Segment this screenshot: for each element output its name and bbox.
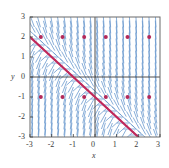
x-tick-label: -1 bbox=[69, 141, 76, 149]
marked-point bbox=[147, 35, 151, 39]
y-tick-label: 3 bbox=[6, 13, 25, 21]
figure-container: -3-2-10123-3-2-10123 x y bbox=[0, 0, 169, 168]
y-tick-label: -2 bbox=[6, 113, 25, 121]
y-tick-label: -1 bbox=[6, 93, 25, 101]
y-tick-label: 2 bbox=[6, 33, 25, 41]
x-tick-label: -2 bbox=[48, 141, 55, 149]
marked-point bbox=[126, 35, 130, 39]
x-tick-label: 1 bbox=[113, 141, 117, 149]
marked-point bbox=[104, 35, 108, 39]
x-tick-label: 2 bbox=[134, 141, 138, 149]
marked-point bbox=[126, 95, 130, 99]
y-tick-label: -3 bbox=[6, 133, 25, 141]
marked-point bbox=[82, 95, 86, 99]
x-axis-title: x bbox=[92, 152, 96, 160]
marked-point bbox=[147, 95, 151, 99]
marked-point bbox=[61, 35, 65, 39]
marked-point bbox=[61, 95, 65, 99]
x-tick-label: -3 bbox=[26, 141, 33, 149]
x-tick-label: 0 bbox=[91, 141, 95, 149]
marked-point bbox=[82, 35, 86, 39]
marked-point bbox=[39, 35, 43, 39]
marked-point bbox=[39, 95, 43, 99]
x-tick-label: 3 bbox=[156, 141, 160, 149]
y-tick-label: 0 bbox=[6, 73, 25, 81]
marked-point bbox=[104, 95, 108, 99]
y-axis-title: y bbox=[11, 73, 15, 81]
y-tick-label: 1 bbox=[6, 53, 25, 61]
